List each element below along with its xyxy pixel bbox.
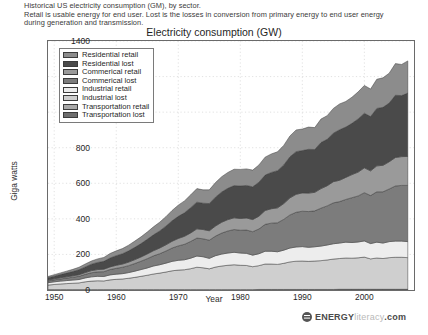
energy-literacy-logo-icon <box>302 312 312 322</box>
chart-figure: Electricity consumption (GW) Giga watts … <box>0 26 428 310</box>
legend-swatch <box>63 61 78 67</box>
y-tick-label: 200 <box>56 249 90 259</box>
legend-swatch <box>63 112 78 118</box>
x-tick-label: 1960 <box>107 292 126 302</box>
figure-caption: Historical US electricity consumption (G… <box>24 2 422 28</box>
brand-literacy-text: literacy <box>354 312 384 322</box>
chart-legend: Residential retailResidential lostCommer… <box>59 48 154 123</box>
energyliteracy-brand[interactable]: ENERGY literacy .com <box>302 312 406 322</box>
legend-swatch <box>63 95 78 101</box>
y-axis-label: Giga watts <box>9 141 19 221</box>
legend-swatch <box>63 52 78 58</box>
y-tick-label: 1400 <box>56 36 90 46</box>
x-tick-label: 1980 <box>231 292 250 302</box>
plot-area: 0200400600800100012001400 19501960197019… <box>47 40 415 291</box>
x-tick-label: 1990 <box>293 292 312 302</box>
legend-swatch <box>63 104 78 110</box>
legend-swatch <box>63 69 78 75</box>
legend-swatch <box>63 78 78 84</box>
y-tick-label: 600 <box>56 178 90 188</box>
legend-item[interactable]: Transportation lost <box>63 111 149 120</box>
brand-energy-text: ENERGY <box>315 312 354 322</box>
brand-tld-text: .com <box>384 312 406 322</box>
legend-swatch <box>63 87 78 93</box>
y-tick-label: 800 <box>56 143 90 153</box>
x-axis-ticks: 195019601970198019902000 <box>48 290 414 306</box>
x-tick-label: 2000 <box>355 292 374 302</box>
x-tick-label: 1970 <box>169 292 188 302</box>
legend-label: Transportation lost <box>82 111 145 120</box>
x-tick-label: 1950 <box>45 292 64 302</box>
y-tick-label: 400 <box>56 214 90 224</box>
